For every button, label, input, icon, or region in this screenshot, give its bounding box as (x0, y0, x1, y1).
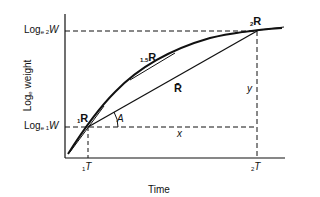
point-15r: 1.5R (140, 52, 156, 63)
y-tick-log2w: Loge 2W (24, 25, 58, 35)
x-tick-t1: 1T (82, 162, 91, 172)
point-2r: 2R (250, 16, 261, 27)
dy-label: y (247, 84, 252, 94)
chord-rbar (88, 31, 257, 127)
dx-label: x (177, 129, 182, 139)
x-axis-label: Time (148, 185, 170, 195)
tangent-2r (235, 27, 284, 33)
chord-label: R̄ (174, 83, 182, 94)
y-axis-label: Loge weight (22, 51, 33, 121)
y-tick-log1w: Loge 1W (24, 121, 58, 131)
point-1r: 1R (77, 113, 88, 124)
angle-label: A (117, 114, 124, 124)
x-tick-t2: 2T (251, 162, 260, 172)
